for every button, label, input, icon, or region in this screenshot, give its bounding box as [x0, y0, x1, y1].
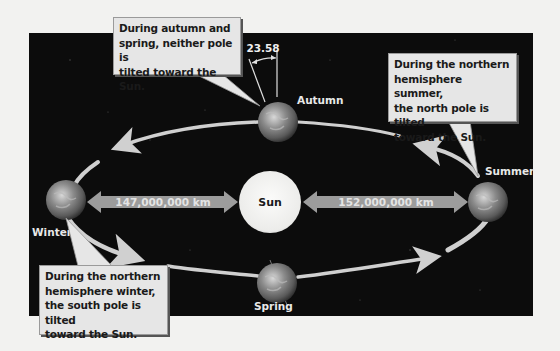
sun-label: Sun — [258, 196, 282, 209]
earth-autumn — [258, 102, 298, 142]
season-label-winter: Winter — [32, 226, 73, 238]
callout-autumn-spring: During autumn and spring, neither pole i… — [113, 17, 241, 75]
distance-label-winter: 147,000,000 km — [115, 196, 210, 208]
tilt-angle-label: 23.58 — [246, 42, 279, 54]
earth-winter — [46, 180, 86, 220]
callout-winter: During the northern hemisphere winter, t… — [39, 265, 168, 335]
season-label-autumn: Autumn — [297, 94, 344, 106]
season-label-spring: Spring — [254, 300, 293, 312]
callout-summer: During the northern hemisphere summer, t… — [388, 53, 517, 122]
distance-label-summer: 152,000,000 km — [338, 196, 433, 208]
season-label-summer: Summer — [485, 165, 535, 177]
earth-summer — [468, 182, 508, 222]
